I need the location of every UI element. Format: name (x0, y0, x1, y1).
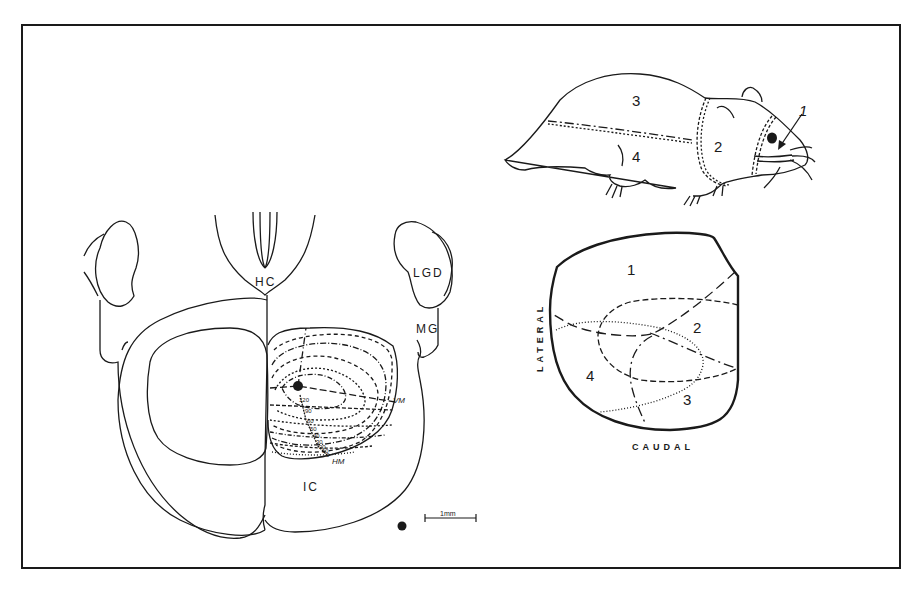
pointer-arrowhead (778, 140, 786, 150)
hamster-eye (767, 133, 777, 144)
hamster-region-3: 3 (632, 92, 640, 109)
axis-caudal: CAUDAL (632, 442, 694, 452)
axis-lateral: LATERAL (535, 303, 545, 372)
map-outline (550, 233, 738, 430)
hamster-front-leg (717, 106, 734, 118)
left-superior-colliculus (147, 328, 267, 465)
hc-fiber-3 (265, 212, 270, 268)
label-ic: IC (303, 480, 319, 494)
iso-label: 120 (299, 397, 310, 403)
map-boundary-1 (554, 272, 735, 336)
figure-frame (22, 25, 900, 568)
area-centralis-dot (293, 381, 303, 391)
somatotopic-map: 1 2 3 4 LATERAL CAUDAL (535, 233, 738, 452)
map-boundary-2 (598, 298, 738, 381)
hamster-boundary-dorsal-2 (548, 124, 692, 143)
hamster-region-4: 4 (632, 148, 640, 165)
iso-label: 50 (310, 426, 317, 432)
hc-fiber-2 (260, 212, 265, 268)
map-boundary-3 (650, 333, 736, 368)
iso-label: 60 (307, 418, 314, 424)
left-lateral-lobe (96, 221, 139, 306)
hamster-drawing: 3 4 2 1 (505, 74, 815, 206)
isoeccentricity-contours (270, 328, 395, 456)
left-shoulder (122, 342, 128, 350)
reference-dot (398, 522, 407, 531)
map-region-2: 2 (693, 319, 701, 336)
hamster-toes (684, 196, 700, 206)
scale-bar: 1mm (425, 510, 476, 522)
label-mg: MG (416, 322, 439, 336)
label-hm: HM (332, 457, 345, 466)
map-region-4: 4 (586, 367, 594, 384)
label-hc: HC (255, 275, 276, 289)
left-inferior-colliculus (118, 298, 267, 535)
midline (263, 295, 267, 530)
map-region-1: 1 (627, 261, 635, 278)
hamster-whiskers (754, 147, 815, 188)
map-boundary-4 (630, 336, 652, 425)
lgd-outline (394, 222, 452, 308)
hamster-region-2: 2 (714, 138, 722, 155)
iso-label: 90 (305, 408, 312, 414)
brain-section-diagram: 120 90 60 50 40 30 20 10 0 HC LGD MG IC … (84, 212, 476, 538)
label-vm: VM (393, 396, 405, 405)
left-outer-contour (100, 300, 265, 538)
label-lgd: LGD (413, 266, 444, 280)
hamster-boundary-dorsal (548, 121, 692, 140)
scale-bar-label: 1mm (440, 510, 456, 517)
hamster-hind-leg (618, 145, 623, 166)
right-inferior-colliculus (265, 355, 424, 532)
figure-canvas: 120 90 60 50 40 30 20 10 0 HC LGD MG IC … (0, 0, 923, 591)
map-region-3: 3 (683, 391, 691, 408)
hamster-region-1: 1 (799, 102, 807, 119)
